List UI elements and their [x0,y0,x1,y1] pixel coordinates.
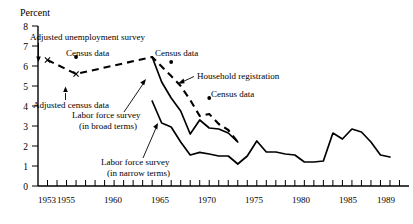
arrow-head-icon [63,87,68,93]
x-tick-label: 1980 [292,195,311,205]
x-tick-label: 1960 [104,195,123,205]
x-tick-label: 1975 [245,195,264,205]
y-tick-label: 4 [23,102,28,112]
series-labor-force-survey-broad [152,57,238,142]
unemployment-rate-chart: Percent 0 1 2 3 4 5 6 7 8 1953 1955 1960… [0,0,413,224]
annotation-labor-force-survey-broad-line2: (in broad terms) [79,121,137,131]
x-tick-label: 1965 [151,195,170,205]
y-tick-label: 8 [23,22,28,32]
annotation-census-data-left: Census data [66,48,109,58]
x-tick-label: 1953 [38,195,57,205]
marker-census-dot [169,60,173,64]
annotation-census-data-top: Census data [155,48,198,58]
annotation-labor-force-survey-narrow-line1: Labor force survey [101,157,170,167]
x-tick-label: 1985 [339,195,358,205]
x-tick-label: 1989 [377,195,396,205]
series-labor-force-survey-narrow [152,101,390,164]
arrow-head-icon [178,79,185,85]
y-tick-label: 3 [23,122,28,132]
annotation-labor-force-survey-broad-line1: Labor force survey [72,110,141,120]
leader-line-labor-force-survey-narrow [143,128,156,158]
x-tick-label: 1955 [57,195,76,205]
y-tick-label: 6 [23,62,28,72]
y-tick-label: 2 [23,142,28,152]
y-tick-label: 7 [23,42,28,52]
leader-line-labor-force-survey-broad [124,84,143,112]
annotation-adjusted-unemployment-survey: Adjusted unemployment survey [30,32,145,42]
chart-svg: Percent 0 1 2 3 4 5 6 7 8 1953 1955 1960… [0,0,413,224]
y-tick-label: 0 [23,182,28,192]
annotation-household-registration: Household registration [197,71,280,81]
annotation-adjusted-census-data: Adjusted census data [33,100,109,110]
y-tick-label: 5 [23,82,28,92]
annotation-labor-force-survey-narrow-line2: (in narrow terms) [107,168,170,178]
x-axis-ticks [48,180,400,186]
y-axis-title: Percent [20,7,50,18]
arrow-head-icon [36,57,41,63]
annotation-census-data-right: Census data [211,89,254,99]
x-tick-label: 1970 [198,195,217,205]
y-tick-label: 1 [23,162,28,172]
x-axis-labels: 1953 1955 1960 1965 1970 1975 1980 1985 … [38,195,396,205]
arrow-head-icon [140,79,146,85]
